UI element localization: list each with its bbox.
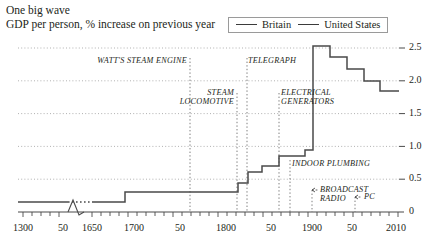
- chart-root: One big wave GDP per person, % increase …: [0, 0, 435, 243]
- x-axis-label-1800: 1800: [216, 222, 236, 233]
- annotation-watt-steam-engine: WATT'S STEAM ENGINE: [82, 56, 187, 66]
- annotation-steam-locomotive-line2: LOCOMOTIVE: [170, 97, 234, 107]
- x-axis-label-2010: 2010: [386, 222, 406, 233]
- y-axis-ticks: [399, 48, 405, 179]
- y-axis-label-2-5: 2.5: [409, 41, 422, 52]
- x-axis-label-1900: 1900: [302, 222, 322, 233]
- x-axis-label-1300: 1300: [13, 222, 33, 233]
- y-axis-label-1-5: 1.5: [409, 107, 422, 118]
- y-axis-label-0: 0: [409, 205, 414, 216]
- annotation-broadcast-radio-line2: RADIO: [320, 194, 346, 204]
- y-axis-label-0-5: 0.5: [409, 172, 422, 183]
- x-axis-label-1650: 1650: [82, 222, 102, 233]
- x-axis-label-1700: 1700: [124, 222, 144, 233]
- y-axis-label-2-0: 2.0: [409, 74, 422, 85]
- annotation-electrical-generators-line2: GENERATORS: [281, 97, 334, 107]
- series-line-britain: [92, 46, 399, 202]
- annotation-pc: PC: [364, 192, 375, 202]
- x-axis-label-1350: 50: [58, 222, 68, 233]
- x-axis-label-1950: 50: [347, 222, 357, 233]
- annotation-telegraph: TELEGRAPH: [248, 56, 296, 66]
- x-axis-label-1850: 50: [266, 222, 276, 233]
- chart-canvas: [0, 0, 435, 243]
- y-axis-label-1-0: 1.0: [409, 140, 422, 151]
- x-axis-label-1750: 50: [175, 222, 185, 233]
- annotation-indoor-plumbing: INDOOR PLUMBING: [292, 159, 370, 169]
